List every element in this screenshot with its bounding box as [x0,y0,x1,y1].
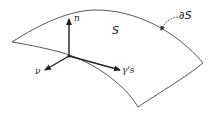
surface-label: S [112,25,119,36]
boundary-leader-arrow [161,17,178,30]
boundary-label: ∂S [179,10,192,21]
conormal-label: ν [35,67,40,76]
tangent-label: γ's [122,66,134,75]
tangent-vector-arrow [69,56,120,70]
conormal-vector-arrow [45,56,69,70]
base-point [67,54,70,57]
normal-label: n [74,14,80,23]
surface-outline [12,10,203,107]
